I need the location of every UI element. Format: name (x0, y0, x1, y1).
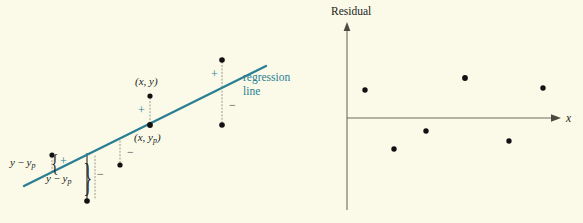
residual-point (423, 128, 428, 133)
data-point (219, 122, 225, 128)
sign-minus-1: − (97, 168, 104, 180)
sign-minus-3: − (229, 99, 236, 111)
textbook-figure-residuals: regression line (x, y) (x, yp) y − yp { … (0, 0, 583, 223)
residual-expr-minus: − (15, 156, 27, 168)
residual-point (462, 75, 468, 81)
predicted-point-prefix: (x, y (134, 131, 153, 143)
residual-point (506, 138, 511, 143)
residual-expression-label-lower: y − yp (46, 173, 72, 186)
residual-expr2-sub: p (68, 177, 72, 186)
predicted-point-label: (x, yp) (134, 132, 161, 145)
sign-plus-2: + (138, 104, 145, 116)
residual-point (362, 87, 367, 92)
observed-point-label-text: (x, y) (135, 75, 158, 87)
residual-expr-sub: p (32, 161, 36, 170)
y-axis-arrowhead (344, 22, 351, 31)
residual-plot-panel (344, 22, 561, 210)
data-point-on-line (147, 122, 153, 128)
x-axis-arrowhead (551, 114, 561, 122)
sign-plus-3: + (211, 68, 218, 80)
data-point (147, 93, 152, 98)
x-axis-title: x (566, 112, 571, 124)
residual-axis-title: Residual (331, 5, 371, 17)
regression-line-label: regression line (243, 71, 290, 98)
residual-expression-label-left: y − yp (10, 157, 36, 170)
residual-points (362, 75, 545, 152)
regression-line-label-line1: regression (243, 71, 290, 83)
data-point (117, 162, 122, 167)
data-point (219, 57, 225, 63)
predicted-point-suffix: ) (157, 131, 161, 143)
residual-point (391, 146, 396, 151)
sign-minus-2: − (127, 146, 134, 158)
observed-point-label: (x, y) (135, 76, 158, 87)
residual-expr2-minus: − (51, 172, 63, 184)
brace-lower-residual: { (83, 157, 92, 198)
sign-plus-1: + (60, 155, 67, 167)
regression-line-label-line2: line (243, 85, 260, 97)
residual-point (540, 85, 545, 90)
